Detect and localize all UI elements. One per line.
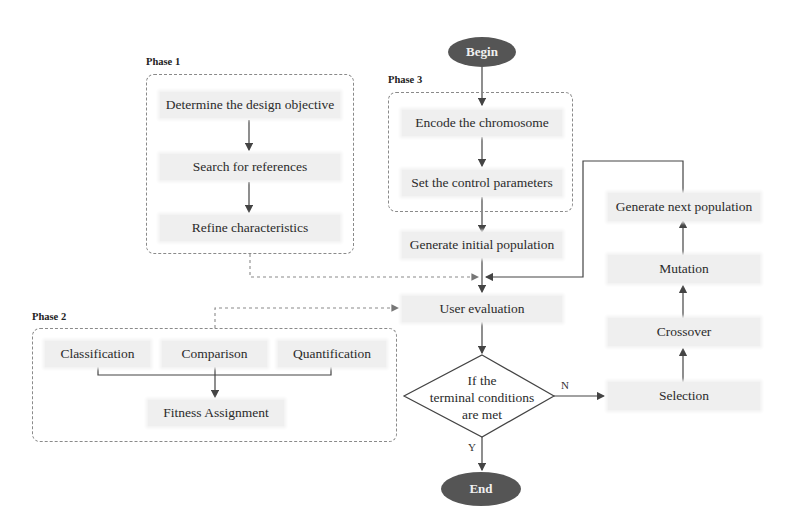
selection-node: Selection — [608, 382, 760, 410]
decision-line-3: are met — [412, 406, 552, 423]
begin-label: Begin — [466, 44, 498, 60]
phase-1-label: Phase 1 — [146, 56, 180, 67]
classification-node: Classification — [45, 341, 150, 367]
set-control-parameters-node: Set the control parameters — [402, 170, 562, 196]
user-evaluation-node: User evaluation — [402, 296, 562, 322]
node-label: Encode the chromosome — [415, 115, 548, 131]
node-label: Search for references — [193, 159, 308, 175]
node-label: Quantification — [293, 346, 371, 362]
fitness-assignment-node: Fitness Assignment — [148, 400, 284, 426]
node-label: User evaluation — [439, 301, 524, 317]
decision-label: If the terminal conditions are met — [412, 372, 552, 423]
no-edge-label: N — [561, 379, 569, 391]
node-label: Generate next population — [616, 199, 752, 215]
phase-2-label: Phase 2 — [32, 311, 66, 322]
mutation-node: Mutation — [608, 255, 760, 283]
decision-line-2: terminal conditions — [412, 389, 552, 406]
node-label: Mutation — [659, 261, 709, 277]
decision-line-1: If the — [412, 372, 552, 389]
quantification-node: Quantification — [278, 341, 386, 367]
node-label: Set the control parameters — [411, 175, 552, 191]
node-label: Selection — [659, 388, 709, 404]
encode-chromosome-node: Encode the chromosome — [402, 110, 562, 136]
comparison-node: Comparison — [162, 341, 267, 367]
refine-characteristics-node: Refine characteristics — [160, 215, 340, 241]
end-terminal: End — [441, 472, 521, 506]
phase-3-label: Phase 3 — [388, 74, 422, 85]
search-references-node: Search for references — [160, 154, 340, 180]
node-label: Classification — [60, 346, 134, 362]
node-label: Refine characteristics — [192, 220, 309, 236]
yes-edge-label: Y — [468, 441, 476, 453]
node-label: Fitness Assignment — [163, 405, 268, 421]
flowchart-canvas: Begin Phase 1 Determine the design objec… — [0, 0, 788, 532]
determine-objective-node: Determine the design objective — [160, 92, 340, 118]
node-label: Comparison — [182, 346, 248, 362]
generate-next-population-node: Generate next population — [608, 193, 760, 221]
begin-terminal: Begin — [448, 37, 516, 67]
node-label: Generate initial population — [410, 237, 555, 253]
generate-initial-population-node: Generate initial population — [402, 232, 562, 258]
node-label: Determine the design objective — [166, 97, 334, 113]
crossover-node: Crossover — [608, 318, 760, 346]
node-label: Crossover — [657, 324, 712, 340]
end-label: End — [469, 481, 492, 497]
